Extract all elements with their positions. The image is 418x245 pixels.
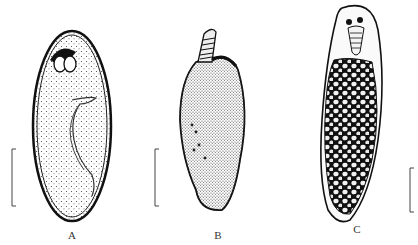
panel-label-a: A: [68, 229, 76, 241]
scale-bar-b: [155, 149, 159, 206]
panel-label-c: C: [353, 223, 360, 235]
organism-c: [321, 6, 382, 222]
scale-bar-c: [410, 168, 414, 212]
scale-bar-a: [12, 149, 16, 206]
organism-b: [180, 29, 245, 210]
panel-label-b: B: [214, 229, 221, 241]
organism-a: [33, 31, 111, 221]
figure: A B C: [0, 0, 418, 245]
